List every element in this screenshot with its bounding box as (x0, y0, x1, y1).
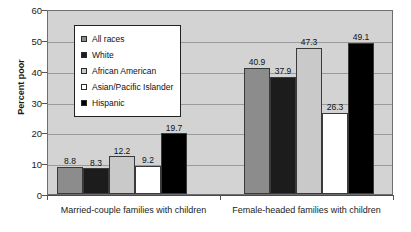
legend-label: Asian/Pacific Islander (92, 83, 173, 92)
legend-item-african-american: African American (81, 63, 175, 79)
y-tick-label: 10 (16, 160, 42, 170)
bar-value-label: 47.3 (292, 38, 326, 47)
legend-label: White (92, 51, 114, 60)
x-tick-mark (220, 195, 221, 200)
legend-item-white: White (81, 47, 175, 63)
legend-swatch-icon (81, 52, 87, 58)
bar-value-label: 40.9 (240, 58, 274, 67)
y-tick-label: 40 (16, 68, 42, 78)
bar-value-label: 37.9 (266, 67, 300, 76)
legend-item-all-races: All races (81, 31, 175, 47)
chart-legend: All races White African American Asian/P… (74, 25, 181, 117)
bar-value-label: 49.1 (344, 33, 378, 42)
bar-white (270, 77, 296, 194)
bar-all-races (244, 68, 270, 194)
legend-item-hispanic: Hispanic (81, 95, 175, 111)
y-tick-label: 60 (16, 6, 42, 16)
legend-label: All races (92, 35, 125, 44)
y-tick-label: 20 (16, 129, 42, 139)
y-axis-tick-labels: 60 50 40 30 20 10 0 (14, 0, 42, 232)
bar-value-label: 8.3 (79, 159, 113, 168)
bar-chart: Percent poor 60 50 40 30 20 10 0 8.8 8.3 (0, 0, 411, 232)
bar-all-races (57, 167, 83, 194)
bar-value-label: 26.3 (318, 103, 352, 112)
legend-swatch-icon (81, 36, 87, 42)
bar-asian-pacific-islander (135, 166, 161, 194)
legend-item-asian-pacific-islander: Asian/Pacific Islander (81, 79, 175, 95)
x-tick-mark (47, 195, 48, 200)
bar-asian-pacific-islander (322, 113, 348, 194)
x-tick-mark (393, 195, 394, 200)
bar-value-label: 9.2 (131, 156, 165, 165)
bar-hispanic (348, 43, 374, 194)
y-tick-label: 0 (16, 191, 42, 201)
bar-value-label: 12.2 (105, 147, 139, 156)
y-tick-label: 50 (16, 37, 42, 47)
legend-label: Hispanic (92, 99, 125, 108)
legend-swatch-icon (81, 68, 87, 74)
legend-swatch-icon (81, 84, 87, 90)
legend-swatch-icon (81, 100, 87, 106)
x-category-label-female-headed: Female-headed families with children (220, 205, 393, 215)
x-category-label-married-couple: Married-couple families with children (47, 205, 220, 215)
legend-label: African American (92, 67, 156, 76)
y-tick-label: 30 (16, 99, 42, 109)
bar-white (83, 168, 109, 194)
bar-value-label: 19.7 (157, 124, 191, 133)
